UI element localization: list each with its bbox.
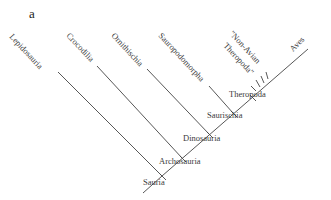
- taxon-lepidosauria: Lepidosauria: [8, 32, 46, 71]
- node-archosauria: Archosauria: [159, 156, 201, 166]
- theropod-tick-3: [261, 76, 264, 83]
- panel-label: a: [29, 6, 35, 21]
- node-theropoda: Theropoda: [229, 89, 266, 99]
- node-dinosauria: Dinosauria: [183, 133, 221, 143]
- lepidosauria-branch: [58, 72, 162, 176]
- crocodilia-branch: [97, 66, 182, 158]
- node-saurischia: Saurischia: [207, 110, 243, 120]
- taxon-crocodilia: Crocodilia: [65, 31, 97, 64]
- taxon-aves: Aves: [287, 34, 306, 53]
- cladogram: a Lepidosauria Crocodilia Ornithischia S…: [0, 0, 331, 200]
- taxon-ornithischia: Ornithischia: [110, 31, 146, 69]
- taxon-sauropodomorpha: Sauropodomorpha: [157, 31, 207, 84]
- node-sauria: Sauria: [143, 177, 165, 187]
- theropod-tick-4: [266, 72, 268, 79]
- theropod-tick-2: [256, 80, 260, 87]
